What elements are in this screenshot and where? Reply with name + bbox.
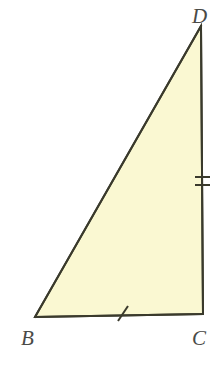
vertex-label-c: C: [192, 328, 207, 349]
triangle-diagram-svg: [0, 0, 221, 379]
vertex-label-d: D: [192, 6, 208, 27]
geometry-figure: D B C: [0, 0, 221, 379]
vertex-label-b: B: [21, 328, 34, 349]
